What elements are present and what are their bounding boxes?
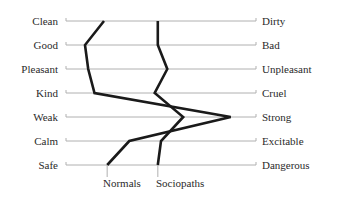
- left-label-calm: Calm: [0, 135, 58, 147]
- right-label-bad: Bad: [262, 39, 280, 51]
- series-label-normals: Normals: [103, 177, 141, 189]
- left-label-kind: Kind: [0, 87, 58, 99]
- right-label-unpleasant: Unpleasant: [262, 63, 311, 75]
- profile-lines: [85, 21, 231, 177]
- left-label-good: Good: [0, 39, 58, 51]
- left-label-clean: Clean: [0, 15, 58, 27]
- right-label-excitable: Excitable: [262, 135, 304, 147]
- right-label-cruel: Cruel: [262, 87, 286, 99]
- right-label-strong: Strong: [262, 111, 291, 123]
- right-label-dangerous: Dangerous: [262, 159, 310, 171]
- series-label-sociopaths: Sociopaths: [156, 177, 204, 189]
- left-label-weak: Weak: [0, 111, 58, 123]
- right-label-dirty: Dirty: [262, 15, 285, 27]
- semantic-differential-chart: Clean Good Pleasant Kind Weak Calm Safe …: [0, 0, 338, 197]
- left-label-pleasant: Pleasant: [0, 63, 58, 75]
- left-label-safe: Safe: [0, 159, 58, 171]
